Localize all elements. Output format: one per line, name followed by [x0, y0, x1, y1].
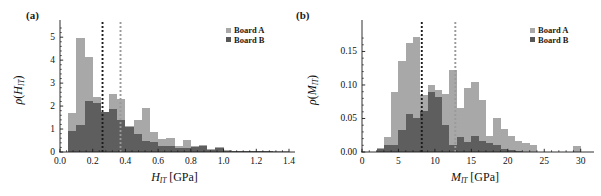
panel-b-y-axis-title: ρ(MIT) — [305, 75, 320, 105]
panel-b-x-axis-title: MIT [GPa] — [451, 170, 499, 185]
legend-item-board-b: Board B — [530, 36, 568, 45]
panel-a-x-axis-title: HIT [GPa] — [151, 170, 198, 185]
legend-item-board-a: Board A — [530, 26, 568, 35]
x-tick-label: 5 — [396, 156, 401, 166]
x-tick-label: 10 — [430, 156, 440, 166]
panel-b-legend: Board A Board B — [530, 26, 568, 44]
panel-a-y-axis-title: ρ(HIT) — [11, 76, 26, 105]
x-tick-label: 1.2 — [250, 156, 262, 166]
y-tick-label: 3 — [45, 78, 55, 88]
y-tick-label: 0.00 — [335, 147, 357, 157]
y-tick-label: 0.05 — [335, 113, 357, 123]
x-tick-label: 0.4 — [119, 156, 131, 166]
x-tick-label: 1.4 — [283, 156, 295, 166]
legend-swatch-board-a — [530, 28, 535, 33]
x-tick-label: 15 — [467, 156, 477, 166]
panel-a-legend: Board A Board B — [226, 26, 264, 44]
legend-label-board-b: Board B — [234, 36, 264, 45]
x-tick-label: 20 — [503, 156, 513, 166]
y-tick-label: 5 — [45, 32, 55, 42]
x-tick-label: 0.8 — [185, 156, 197, 166]
x-tick-label: 0 — [360, 156, 365, 166]
legend-swatch-board-b — [226, 37, 231, 42]
legend-swatch-board-a — [226, 28, 231, 33]
legend-swatch-board-b — [530, 37, 535, 42]
legend-label-board-a: Board A — [234, 26, 264, 35]
y-tick-label: 0.10 — [335, 80, 357, 90]
y-tick-label: 4 — [45, 55, 55, 65]
x-tick-label: 25 — [540, 156, 550, 166]
legend-item-board-b: Board B — [226, 36, 264, 45]
panel-b: (b) Board A Board B MIT [GPa] ρ(MIT) 051… — [300, 0, 601, 196]
panel-a: (a) Board A Board B HIT [GPa] ρ(HIT) 0.0… — [0, 0, 300, 196]
x-tick-label: 0.2 — [87, 156, 99, 166]
x-tick-label: 30 — [576, 156, 586, 166]
x-tick-label: 0.6 — [152, 156, 164, 166]
y-tick-label: 2 — [45, 101, 55, 111]
y-tick-label: 0.15 — [335, 46, 357, 56]
y-tick-label: 1 — [45, 124, 55, 134]
x-tick-label: 0.0 — [54, 156, 66, 166]
legend-item-board-a: Board A — [226, 26, 264, 35]
y-tick-label: 0 — [45, 147, 55, 157]
legend-label-board-a: Board A — [538, 26, 568, 35]
figure-root: (a) Board A Board B HIT [GPa] ρ(HIT) 0.0… — [0, 0, 601, 196]
x-tick-label: 1.0 — [218, 156, 230, 166]
legend-label-board-b: Board B — [538, 36, 568, 45]
